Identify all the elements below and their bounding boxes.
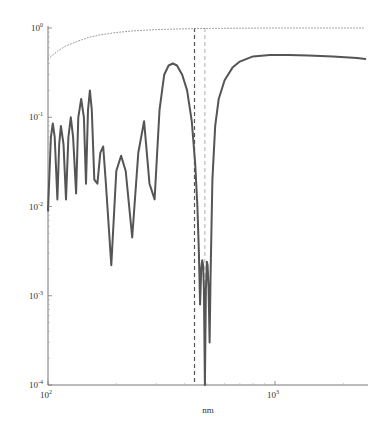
y-tick-label: 100 [31, 22, 43, 33]
y-tick-label: 10-4 [29, 379, 43, 390]
x-tick-label: 102 [40, 389, 52, 400]
x-tick-label: 103 [267, 389, 279, 400]
data-series [48, 28, 365, 385]
vertical-markers [195, 28, 205, 385]
y-tick-label: 10-3 [29, 290, 43, 301]
x-axis-label: nm [202, 405, 214, 415]
y-tick-label: 10-1 [29, 111, 43, 122]
x-tick-labels: 102103 [40, 381, 279, 400]
plot-area [48, 26, 368, 385]
chart: 10010-110-210-310-4 102103 nm [0, 0, 383, 430]
solid-data-curve [48, 55, 365, 385]
y-tick-label: 10-2 [29, 201, 43, 212]
dotted-bound-curve [48, 28, 365, 59]
